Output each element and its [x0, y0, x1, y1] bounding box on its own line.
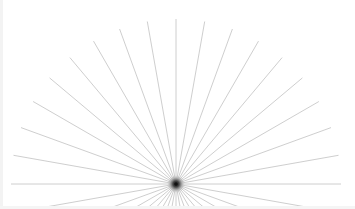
- starburst-canvas: [0, 0, 355, 209]
- bottom-edge-strip: [0, 206, 355, 209]
- center-point: [174, 182, 177, 185]
- starburst-figure: [0, 0, 355, 209]
